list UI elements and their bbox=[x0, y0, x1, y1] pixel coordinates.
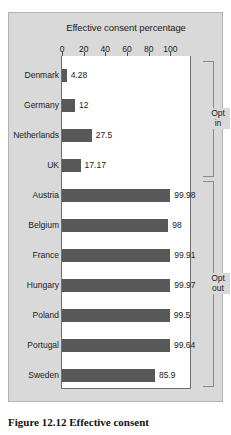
bar bbox=[62, 129, 92, 142]
bar-row: Sweden85.9 bbox=[62, 360, 190, 390]
bar-category-label: Sweden bbox=[28, 370, 59, 380]
bar-value-label: 99.98 bbox=[174, 190, 195, 200]
bar bbox=[62, 279, 170, 292]
bar-value-label: 12 bbox=[79, 100, 88, 110]
bar bbox=[62, 189, 170, 202]
plot-area: Denmark4.28Germany12Netherlands27.5UK17.… bbox=[61, 56, 191, 389]
bar bbox=[62, 219, 168, 232]
bar-row: Germany12 bbox=[62, 90, 190, 120]
bar-category-label: Portugal bbox=[27, 340, 59, 350]
bar-row: UK17.17 bbox=[62, 150, 190, 180]
figure-panel: Effective consent percentage 02040608010… bbox=[8, 12, 223, 402]
bar-category-label: Denmark bbox=[25, 70, 59, 80]
bar-value-label: 85.9 bbox=[159, 370, 176, 380]
group-label-opt-out: Optout bbox=[206, 273, 230, 294]
bar bbox=[62, 69, 67, 82]
bars-container: Denmark4.28Germany12Netherlands27.5UK17.… bbox=[62, 56, 190, 388]
bar bbox=[62, 369, 155, 382]
bar-value-label: 4.28 bbox=[71, 70, 88, 80]
bar-value-label: 99.5 bbox=[174, 310, 191, 320]
bar-value-label: 99.91 bbox=[174, 250, 195, 260]
bar-category-label: Netherlands bbox=[13, 130, 59, 140]
bar bbox=[62, 309, 170, 322]
bar bbox=[62, 249, 170, 262]
bar-category-label: France bbox=[33, 250, 59, 260]
bar-row: Hungary99.97 bbox=[62, 270, 190, 300]
bar-value-label: 17.17 bbox=[85, 160, 106, 170]
group-label-line2: out bbox=[206, 284, 230, 294]
bar-value-label: 99.64 bbox=[174, 340, 195, 350]
bar-row: Denmark4.28 bbox=[62, 60, 190, 90]
bar-category-label: Poland bbox=[33, 310, 59, 320]
bar-category-label: Hungary bbox=[27, 280, 59, 290]
bar bbox=[62, 159, 81, 172]
bar-row: Belgium98 bbox=[62, 210, 190, 240]
bar-value-label: 27.5 bbox=[96, 130, 113, 140]
bar-row: Portugal99.64 bbox=[62, 330, 190, 360]
figure-caption: Figure 12.12 Effective consent bbox=[8, 416, 228, 428]
group-label-line2: in bbox=[206, 119, 230, 129]
bar-row: France99.91 bbox=[62, 240, 190, 270]
bar-value-label: 99.97 bbox=[174, 280, 195, 290]
bar-category-label: Germany bbox=[24, 100, 59, 110]
bar bbox=[62, 339, 170, 352]
bar-value-label: 98 bbox=[172, 220, 181, 230]
bar-row: Netherlands27.5 bbox=[62, 120, 190, 150]
bar bbox=[62, 99, 75, 112]
group-label-opt-in: Optin bbox=[206, 108, 230, 129]
chart-title: Effective consent percentage bbox=[61, 22, 191, 33]
bar-category-label: UK bbox=[47, 160, 59, 170]
bar-category-label: Austria bbox=[33, 190, 59, 200]
bar-row: Poland99.5 bbox=[62, 300, 190, 330]
bar-category-label: Belgium bbox=[28, 220, 59, 230]
bar-row: Austria99.98 bbox=[62, 180, 190, 210]
